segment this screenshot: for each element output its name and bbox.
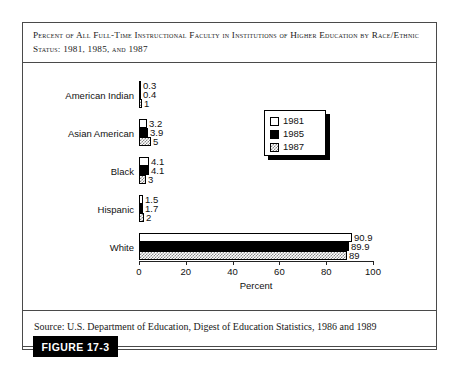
figure-frame: Percent of All Full-Time Instructional F…: [22, 22, 437, 350]
legend-item-1981[interactable]: 1981: [270, 115, 325, 127]
chart-title: Percent of All Full-Time Instructional F…: [33, 29, 428, 56]
bar-value-1987: 1: [142, 98, 149, 109]
x-axis-tick: [326, 261, 327, 265]
bar-1985[interactable]: [139, 128, 148, 137]
x-axis-tick-label: 40: [227, 266, 238, 277]
x-axis-tick-label: 0: [136, 266, 141, 277]
bar-value-1987: 2: [144, 212, 151, 223]
category-label-asian-american: Asian American: [23, 128, 134, 139]
plot-area: American Indian 0.3 0.4 1: [23, 63, 436, 310]
bar-value-1987: 5: [151, 136, 158, 147]
bar-1981[interactable]: [139, 119, 147, 128]
x-axis-tick: [186, 261, 187, 265]
source-note: Source: U.S. Department of Education, Di…: [34, 321, 376, 332]
x-axis-tick-label: 60: [274, 266, 285, 277]
bar-1981[interactable]: [139, 157, 149, 166]
bar-1981[interactable]: [139, 233, 352, 242]
bar-value-1987: 89: [347, 250, 360, 261]
bar-value-1987: 3: [146, 174, 153, 185]
legend: 1981 1985 1987: [264, 110, 326, 156]
x-axis-tick-label: 20: [181, 266, 192, 277]
bar-group-white: White 90.9 89.9 89: [23, 233, 436, 263]
bar-1987[interactable]: [139, 251, 347, 260]
x-axis-tick: [279, 261, 280, 265]
bar-1987[interactable]: [139, 175, 146, 184]
x-axis-tick: [233, 261, 234, 265]
bar-group-hispanic: Hispanic 1.5 1.7 2: [23, 195, 436, 225]
legend-label: 1981: [283, 116, 304, 126]
category-label-white: White: [23, 242, 134, 253]
bar-group-black: Black 4.1 4.1 3: [23, 157, 436, 187]
gray-dither-square-icon: [270, 143, 279, 152]
legend-item-1987[interactable]: 1987: [270, 141, 325, 153]
category-label-american-indian: American Indian: [23, 90, 134, 101]
bar-group-american-indian: American Indian 0.3 0.4 1: [23, 81, 436, 111]
bar-1987[interactable]: [139, 137, 151, 146]
x-axis-title: Percent: [139, 280, 373, 291]
legend-item-1985[interactable]: 1985: [270, 128, 325, 140]
x-axis-tick: [139, 261, 140, 265]
black-filled-square-icon: [270, 130, 279, 139]
bar-1985[interactable]: [139, 242, 349, 251]
title-band: Percent of All Full-Time Instructional F…: [23, 23, 436, 63]
bar-group-asian-american: Asian American 3.2 3.9 5: [23, 119, 436, 149]
figure-tag: FIGURE 17-3: [33, 336, 118, 357]
category-label-black: Black: [23, 166, 134, 177]
plot-panel: American Indian 0.3 0.4 1: [23, 63, 436, 311]
x-axis-tick-label: 100: [365, 266, 381, 277]
x-axis-tick: [373, 261, 374, 265]
legend-label: 1985: [283, 129, 304, 139]
x-axis-tick-label: 80: [321, 266, 332, 277]
white-open-square-icon: [270, 117, 279, 126]
legend-label: 1987: [283, 142, 304, 152]
category-label-hispanic: Hispanic: [23, 204, 134, 215]
x-axis-line: 0 20 40 60 80 100: [139, 261, 373, 262]
